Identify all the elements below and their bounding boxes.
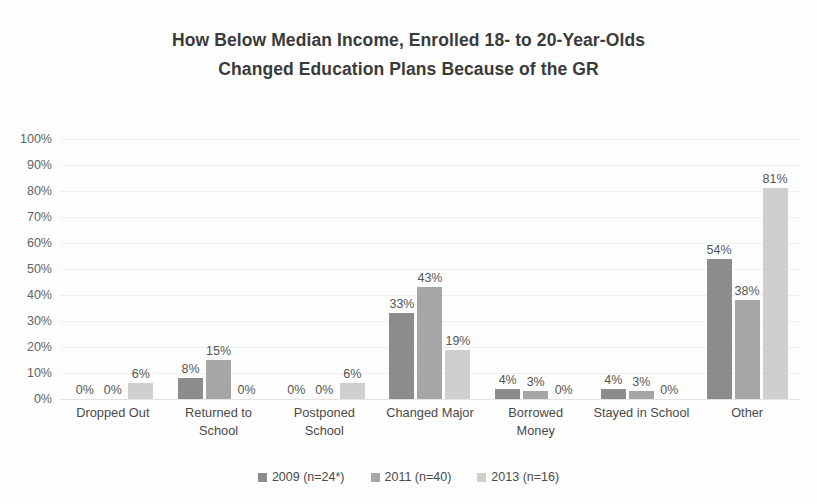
bar[interactable]: 6% — [128, 139, 153, 399]
chart-title: How Below Median Income, Enrolled 18- to… — [0, 26, 817, 84]
bar[interactable]: 8% — [178, 139, 203, 399]
legend-item[interactable]: 2013 (n=16) — [477, 470, 559, 484]
bar-rect[interactable] — [495, 389, 520, 399]
bar-value-label: 43% — [417, 271, 442, 285]
bar[interactable]: 0% — [100, 139, 125, 399]
chart-legend: 2009 (n=24*)2011 (n=40)2013 (n=16) — [0, 470, 817, 484]
bar[interactable]: 4% — [495, 139, 520, 399]
bar-value-label: 38% — [735, 284, 760, 298]
bar[interactable]: 38% — [735, 139, 760, 399]
bar[interactable]: 6% — [340, 139, 365, 399]
x-axis-tick-line: School — [271, 422, 377, 440]
legend-label: 2011 (n=40) — [385, 470, 452, 484]
bar-rect[interactable] — [523, 391, 548, 399]
x-axis-tick-line: Stayed in School — [589, 404, 695, 422]
bar-group: 0%0%6% — [271, 139, 377, 399]
bar[interactable]: 0% — [234, 139, 259, 399]
bar-value-label: 3% — [632, 375, 650, 389]
bar-value-label: 0% — [76, 383, 94, 397]
x-axis-tick-line: School — [166, 422, 272, 440]
bar[interactable]: 0% — [657, 139, 682, 399]
bar[interactable]: 54% — [707, 139, 732, 399]
y-axis-tick: 40% — [0, 288, 52, 302]
y-axis-tick: 90% — [0, 158, 52, 172]
bar-group: 54%38%81% — [694, 139, 800, 399]
bar[interactable]: 81% — [763, 139, 788, 399]
legend-swatch-icon — [258, 473, 267, 482]
bar[interactable]: 0% — [551, 139, 576, 399]
chart-title-line-1: How Below Median Income, Enrolled 18- to… — [0, 26, 817, 55]
bar-value-label: 8% — [182, 362, 200, 376]
bar-value-label: 6% — [132, 367, 150, 381]
y-axis-tick: 50% — [0, 262, 52, 276]
bar[interactable]: 0% — [284, 139, 309, 399]
y-axis-tick: 100% — [0, 132, 52, 146]
y-axis-tick: 70% — [0, 210, 52, 224]
bar-rect[interactable] — [178, 378, 203, 399]
bar-value-label: 4% — [499, 373, 517, 387]
x-axis-tick: Changed Major — [377, 404, 483, 422]
y-axis-tick: 0% — [0, 392, 52, 406]
chart-title-line-2: Changed Education Plans Because of the G… — [0, 55, 817, 84]
bar-group: 4%3%0% — [589, 139, 695, 399]
bar[interactable]: 33% — [389, 139, 414, 399]
y-axis-tick: 80% — [0, 184, 52, 198]
x-axis-tick: Stayed in School — [589, 404, 695, 422]
y-axis-tick: 60% — [0, 236, 52, 250]
bar-value-label: 0% — [555, 383, 573, 397]
bar-group: 4%3%0% — [483, 139, 589, 399]
x-axis-tick-line: Money — [483, 422, 589, 440]
bar-value-label: 3% — [527, 375, 545, 389]
y-axis-tick: 30% — [0, 314, 52, 328]
bar-rect[interactable] — [735, 300, 760, 399]
bar-rect[interactable] — [763, 188, 788, 399]
x-axis-tick-line: Returned to — [166, 404, 272, 422]
bar-rect[interactable] — [417, 287, 442, 399]
legend-label: 2013 (n=16) — [491, 470, 559, 484]
bar-value-label: 15% — [206, 344, 231, 358]
bar-value-label: 0% — [287, 383, 305, 397]
bar-value-label: 54% — [707, 243, 732, 257]
x-axis-tick: Other — [694, 404, 800, 422]
bar-value-label: 33% — [389, 297, 414, 311]
bar-rect[interactable] — [206, 360, 231, 399]
x-axis-tick-line: Borrowed — [483, 404, 589, 422]
bar-value-label: 0% — [315, 383, 333, 397]
bar-value-label: 0% — [238, 383, 256, 397]
bar-value-label: 81% — [763, 172, 788, 186]
bar[interactable]: 43% — [417, 139, 442, 399]
plot-area: 0%0%6%8%15%0%0%0%6%33%43%19%4%3%0%4%3%0%… — [60, 139, 800, 399]
legend-swatch-icon — [477, 473, 486, 482]
bar-chart: How Below Median Income, Enrolled 18- to… — [0, 0, 817, 504]
legend-item[interactable]: 2011 (n=40) — [371, 470, 452, 484]
legend-item[interactable]: 2009 (n=24*) — [258, 470, 345, 484]
bar-rect[interactable] — [389, 313, 414, 399]
x-axis-tick: BorrowedMoney — [483, 404, 589, 440]
bar[interactable]: 0% — [312, 139, 337, 399]
x-axis-tick-line: Other — [694, 404, 800, 422]
bar-rect[interactable] — [340, 383, 365, 399]
x-axis: Dropped OutReturned toSchoolPostponedSch… — [60, 404, 800, 452]
bar-value-label: 6% — [343, 367, 361, 381]
x-axis-tick: Returned toSchool — [166, 404, 272, 440]
bar[interactable]: 3% — [629, 139, 654, 399]
y-axis: 100%90%80%70%60%50%40%30%20%10%0% — [0, 139, 52, 399]
bar[interactable]: 3% — [523, 139, 548, 399]
x-axis-tick-line: Dropped Out — [60, 404, 166, 422]
bar-rect[interactable] — [629, 391, 654, 399]
bar[interactable]: 19% — [445, 139, 470, 399]
bar-rect[interactable] — [128, 383, 153, 399]
x-axis-tick: PostponedSchool — [271, 404, 377, 440]
bar-value-label: 19% — [445, 334, 470, 348]
y-axis-tick: 10% — [0, 366, 52, 380]
bar[interactable]: 15% — [206, 139, 231, 399]
x-axis-tick: Dropped Out — [60, 404, 166, 422]
bar[interactable]: 4% — [601, 139, 626, 399]
bar-rect[interactable] — [601, 389, 626, 399]
bar-group: 33%43%19% — [377, 139, 483, 399]
bar-rect[interactable] — [445, 350, 470, 399]
bar-rect[interactable] — [707, 259, 732, 399]
bar-value-label: 4% — [604, 373, 622, 387]
legend-label: 2009 (n=24*) — [272, 470, 345, 484]
bar[interactable]: 0% — [72, 139, 97, 399]
